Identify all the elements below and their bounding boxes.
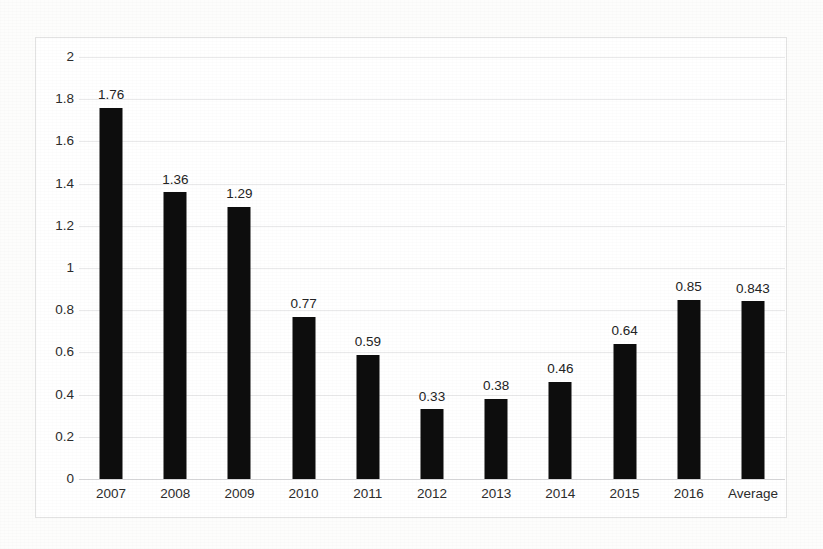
- bar-value-label: 0.77: [290, 297, 316, 311]
- bar-group: 0.59: [336, 57, 400, 479]
- bar-value-label: 0.64: [611, 324, 637, 338]
- x-axis-tick-label: 2016: [657, 487, 721, 501]
- x-axis-tick-label: 2015: [593, 487, 657, 501]
- plot-area: 1.761.361.290.770.590.330.380.460.640.85…: [79, 57, 785, 479]
- y-axis-tick-label: 0.6: [36, 346, 74, 360]
- bar: [549, 382, 572, 479]
- bar-group: 1.36: [143, 57, 207, 479]
- bar-value-label: 0.33: [419, 390, 445, 404]
- bar-group: 0.46: [528, 57, 592, 479]
- x-axis-tick-label: Average: [721, 487, 785, 501]
- y-axis-tick-label: 1.4: [36, 177, 74, 191]
- x-axis-tick-label: 2008: [143, 487, 207, 501]
- bar: [228, 207, 251, 479]
- bar: [356, 355, 379, 479]
- bar-group: 0.38: [464, 57, 528, 479]
- bar-group: 0.843: [721, 57, 785, 479]
- y-axis-tick-label: 0.2: [36, 430, 74, 444]
- bar-value-label: 0.46: [547, 362, 573, 376]
- bar-value-label: 0.85: [676, 280, 702, 294]
- bar-chart-figure: 21.81.61.41.210.80.60.40.20 1.761.361.29…: [35, 37, 787, 518]
- bar-value-label: 0.38: [483, 379, 509, 393]
- bar: [164, 192, 187, 479]
- x-axis-tick-label: 2012: [400, 487, 464, 501]
- bar-group: 1.29: [207, 57, 271, 479]
- y-axis-tick-label: 0: [36, 472, 74, 486]
- bars-layer: 1.761.361.290.770.590.330.380.460.640.85…: [79, 57, 785, 479]
- bar-group: 0.64: [593, 57, 657, 479]
- y-axis: 21.81.61.41.210.80.60.40.20: [36, 57, 74, 479]
- bar-group: 0.77: [272, 57, 336, 479]
- bar-group: 0.33: [400, 57, 464, 479]
- bar-value-label: 0.843: [736, 282, 770, 296]
- bar-value-label: 1.76: [98, 88, 124, 102]
- y-axis-tick-label: 1.6: [36, 135, 74, 149]
- gridline: [79, 479, 785, 480]
- y-axis-tick-label: 0.4: [36, 388, 74, 402]
- bar-value-label: 0.59: [355, 335, 381, 349]
- y-axis-tick-label: 0.8: [36, 303, 74, 317]
- x-axis-tick-label: 2010: [272, 487, 336, 501]
- bar-group: 1.76: [79, 57, 143, 479]
- x-axis-tick-label: 2013: [464, 487, 528, 501]
- bar: [677, 300, 700, 479]
- x-axis-tick-label: 2009: [207, 487, 271, 501]
- bar-value-label: 1.36: [162, 173, 188, 187]
- bar: [613, 344, 636, 479]
- y-axis-tick-label: 2: [36, 50, 74, 64]
- x-axis-tick-label: 2007: [79, 487, 143, 501]
- y-axis-tick-label: 1: [36, 261, 74, 275]
- x-axis: 2007200820092010201120122013201420152016…: [79, 487, 785, 511]
- bar: [741, 301, 764, 479]
- bar-value-label: 1.29: [226, 187, 252, 201]
- x-axis-tick-label: 2014: [528, 487, 592, 501]
- bar: [292, 317, 315, 479]
- bar-group: 0.85: [657, 57, 721, 479]
- bar: [100, 108, 123, 479]
- bar: [485, 399, 508, 479]
- y-axis-tick-label: 1.2: [36, 219, 74, 233]
- y-axis-tick-label: 1.8: [36, 92, 74, 106]
- x-axis-tick-label: 2011: [336, 487, 400, 501]
- bar: [421, 409, 444, 479]
